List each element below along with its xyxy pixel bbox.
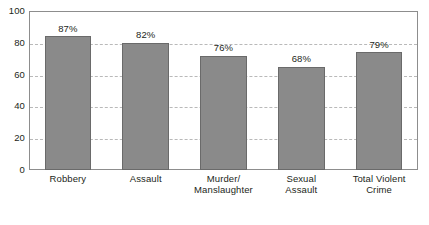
y-tick-label: 60 xyxy=(14,70,25,80)
bar-slot: 79% xyxy=(340,11,418,170)
category-label-line: Manslaughter xyxy=(186,185,262,196)
bar xyxy=(45,36,92,170)
bar-value-label: 76% xyxy=(185,43,263,53)
category-label-line: Crime xyxy=(341,185,417,196)
bar-chart-figure: 020406080100 87%82%76%68%79% RobberyAssa… xyxy=(0,0,429,225)
category-label-line: Total Violent xyxy=(341,174,417,185)
category-label: SexualAssault xyxy=(262,174,340,195)
bar-slot: 82% xyxy=(107,11,185,170)
category-label-line: Assault xyxy=(108,174,184,185)
category-label-line: Robbery xyxy=(30,174,106,185)
category-label: Murder/Manslaughter xyxy=(185,174,263,195)
x-axis-category-labels: RobberyAssaultMurder/ManslaughterSexualA… xyxy=(29,174,418,195)
bar-value-label: 68% xyxy=(262,54,340,64)
category-label-line: Murder/ xyxy=(186,174,262,185)
bar-slot: 76% xyxy=(185,11,263,170)
category-label: Robbery xyxy=(29,174,107,195)
bar xyxy=(278,67,325,170)
category-label-line: Sexual xyxy=(263,174,339,185)
bar xyxy=(356,52,403,170)
category-label-line: Assault xyxy=(263,185,339,196)
bar-value-label: 87% xyxy=(29,24,107,34)
y-tick-label: 20 xyxy=(14,133,25,143)
category-label: Assault xyxy=(107,174,185,195)
category-label: Total ViolentCrime xyxy=(340,174,418,195)
bar-slot: 87% xyxy=(29,11,107,170)
y-axis: 020406080100 xyxy=(0,11,25,170)
bar-value-label: 82% xyxy=(107,30,185,40)
y-tick-label: 80 xyxy=(14,38,25,48)
bar-value-label: 79% xyxy=(340,40,418,50)
y-tick-label: 40 xyxy=(14,102,25,112)
bar xyxy=(122,43,169,170)
bar-slot: 68% xyxy=(262,11,340,170)
bars-layer: 87%82%76%68%79% xyxy=(29,11,418,170)
y-tick-label: 100 xyxy=(9,6,25,16)
y-tick-label: 0 xyxy=(20,165,25,175)
bar xyxy=(200,56,247,170)
